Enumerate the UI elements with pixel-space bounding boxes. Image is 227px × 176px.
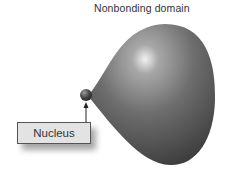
nonbonding-domain-diagram: [0, 0, 227, 176]
nucleus-label: Nucleus: [33, 127, 75, 139]
nucleus-sphere: [80, 89, 92, 101]
arrow-head-icon: [84, 102, 89, 108]
nonbonding-domain-lobe: [88, 24, 215, 165]
nucleus-label-box: Nucleus: [17, 122, 91, 144]
